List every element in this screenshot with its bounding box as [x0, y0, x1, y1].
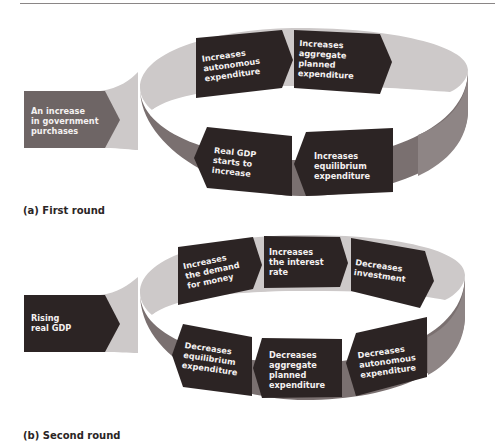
- caption-second-round: (b) Second round: [23, 430, 121, 441]
- second-round-cycle-diagram: Rising real GDP Increases the demand for…: [0, 225, 495, 437]
- panel-first-round: An increase in government purchases Incr…: [0, 0, 495, 220]
- first-round-cycle-diagram: An increase in government purchases Incr…: [0, 0, 495, 220]
- panel-second-round: Rising real GDP Increases the demand for…: [0, 225, 495, 437]
- caption-first-round: (a) First round: [23, 205, 105, 216]
